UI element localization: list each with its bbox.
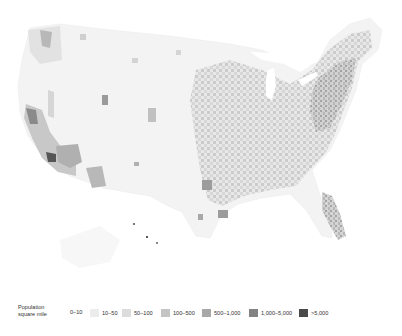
us-population-density-map <box>0 0 402 296</box>
legend-item-0-10: 0–10 <box>70 309 82 315</box>
legend-swatch <box>90 309 99 317</box>
legend-swatch <box>249 309 258 317</box>
island <box>133 223 135 225</box>
legend-swatch <box>122 309 131 317</box>
alaska-faint <box>60 226 120 268</box>
central-valley <box>48 90 54 118</box>
county-dense <box>102 95 108 105</box>
legend-swatch <box>299 309 308 317</box>
legend-title-line2: square mile <box>18 311 47 318</box>
legend-item-500-1000: 500–1,000 <box>202 309 240 317</box>
county-dense <box>80 34 86 40</box>
legend-label: 500–1,000 <box>214 310 240 316</box>
legend-label: 1,000–5,000 <box>261 310 292 316</box>
legend-title: Population square mile <box>18 304 47 318</box>
legend-item-50-100: 50–100 <box>122 309 153 317</box>
dallas <box>202 180 212 190</box>
legend-item-1000-5000: 1,000–5,000 <box>249 309 292 317</box>
legend-swatch <box>161 309 170 317</box>
legend-title-line1: Population <box>18 304 47 311</box>
county-dense <box>134 162 139 166</box>
legend-item-100-500: 100–500 <box>161 309 195 317</box>
legend: Population square mile 0–10 10–50 50–100… <box>0 304 402 328</box>
legend-item-10-50: 10–50 <box>90 309 118 317</box>
legend-item-over-5000: >5,000 <box>299 309 328 317</box>
legend-swatch <box>202 309 211 317</box>
legend-label: >5,000 <box>311 310 328 316</box>
island <box>156 242 158 244</box>
houston <box>218 210 228 218</box>
san-antonio <box>198 214 203 220</box>
legend-label: 100–500 <box>173 310 195 316</box>
legend-label: 10–50 <box>102 310 118 316</box>
legend-label: 50–100 <box>134 310 153 316</box>
county-dense <box>176 50 181 55</box>
county-dense <box>132 58 138 63</box>
island <box>146 236 148 238</box>
legend-label: 0–10 <box>70 309 82 315</box>
county-dense <box>148 108 156 122</box>
